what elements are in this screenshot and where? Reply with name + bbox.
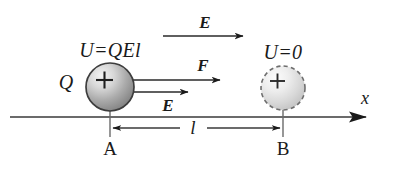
charge-b-circle — [261, 66, 305, 110]
potential-energy-label-a: U=QEl — [79, 40, 141, 60]
point-label-b: B — [277, 139, 290, 158]
charge-a-circle — [86, 63, 134, 111]
charge-symbol-label: Q — [59, 72, 73, 92]
point-label-a: A — [103, 139, 117, 158]
charge-b-sphere — [261, 66, 305, 110]
separation-length-label: l — [190, 118, 195, 137]
x-axis-label: x — [361, 89, 369, 107]
field-at-charge-label: E — [162, 97, 173, 114]
physics-diagram: U=QEl U=0 Q E F E l A B x — [0, 0, 396, 182]
potential-energy-label-b: U=0 — [264, 42, 303, 62]
charge-a-sphere — [86, 63, 134, 111]
field-top-label: E — [199, 14, 210, 31]
position-ticks — [110, 110, 283, 137]
force-label: F — [197, 57, 208, 74]
